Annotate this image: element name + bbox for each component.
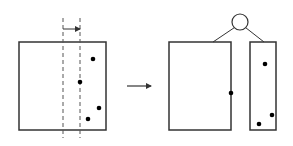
data-point bbox=[78, 80, 83, 85]
data-point bbox=[97, 106, 102, 111]
tree-edge-left bbox=[213, 28, 234, 42]
before-group bbox=[19, 18, 106, 138]
left-child-region-box bbox=[169, 42, 231, 130]
data-point bbox=[263, 62, 268, 67]
tree-edge-right bbox=[246, 28, 264, 42]
data-point bbox=[257, 122, 262, 127]
data-point bbox=[91, 57, 96, 62]
split-points bbox=[229, 62, 275, 127]
data-point bbox=[229, 91, 234, 96]
after-group bbox=[169, 14, 276, 130]
split-diagram bbox=[0, 0, 293, 146]
original-points bbox=[78, 57, 102, 122]
data-point bbox=[86, 117, 91, 122]
parent-node-circle bbox=[232, 14, 248, 30]
data-point bbox=[270, 113, 275, 118]
